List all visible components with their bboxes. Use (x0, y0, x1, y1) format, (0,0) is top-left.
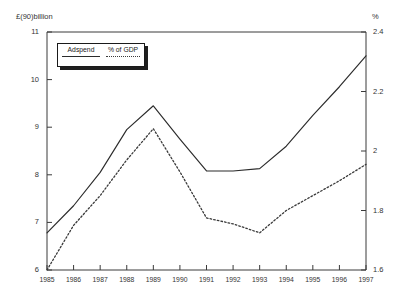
x-axis-tick-marks (47, 265, 366, 270)
left-axis-tick-label: 10 (17, 75, 39, 84)
axes (47, 32, 366, 270)
left-axis-tick-label: 11 (17, 27, 39, 36)
right-axis-tick-marks (361, 32, 366, 270)
legend-item-gdp-percent: % of GDP (103, 46, 143, 60)
left-axis-tick-label: 7 (17, 217, 39, 226)
right-axis-tick-label: 1.8 (373, 206, 397, 215)
legend-item-adspend-label: Adspend (62, 46, 100, 53)
right-axis-tick-label: 2 (373, 146, 397, 155)
right-axis-tick-label: 2.4 (373, 27, 397, 36)
right-axis-tick-label: 2.2 (373, 87, 397, 96)
right-axis-tick-label: 1.6 (373, 265, 397, 274)
left-axis-tick-label: 6 (17, 265, 39, 274)
gdp-percent-series-line (47, 129, 366, 270)
legend-item-gdp-percent-label: % of GDP (103, 46, 143, 53)
left-axis-tick-label: 9 (17, 122, 39, 131)
legend-item-gdp-percent-line-sample (106, 56, 140, 60)
x-axis-tick-label: 1997 (349, 276, 383, 283)
legend-item-adspend-line-sample (62, 56, 100, 60)
legend-item-adspend: Adspend (62, 46, 100, 60)
advertising-spend-line-chart: £(90)billion % 67891011 1.61.822.22.4 19… (0, 0, 402, 299)
left-axis-tick-marks (47, 32, 52, 270)
adspend-series-line (47, 56, 366, 233)
left-axis-tick-label: 8 (17, 170, 39, 179)
chart-legend: Adspend % of GDP (57, 43, 145, 67)
